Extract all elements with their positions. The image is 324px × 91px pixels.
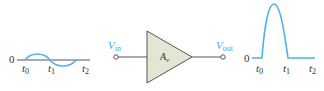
gain-label: Av (160, 52, 169, 64)
input-t2-label: t2 (82, 63, 89, 76)
input-t1-label: t1 (48, 63, 55, 76)
vout-label: Vout (216, 40, 233, 53)
output-t2-label: t2 (309, 63, 316, 76)
output-t0-label: t0 (256, 63, 263, 76)
input-zero-label: 0 (9, 54, 15, 65)
vin-label: Vin (108, 40, 121, 53)
input-t0-label: t0 (22, 63, 29, 76)
input-terminal (114, 55, 118, 59)
diagram-canvas (0, 0, 324, 91)
output-t1-label: t1 (283, 63, 290, 76)
output-zero-label: 0 (244, 53, 250, 64)
output-terminal (221, 55, 225, 59)
amplifier-triangle (147, 31, 192, 83)
output-pulse-wave (252, 4, 315, 58)
